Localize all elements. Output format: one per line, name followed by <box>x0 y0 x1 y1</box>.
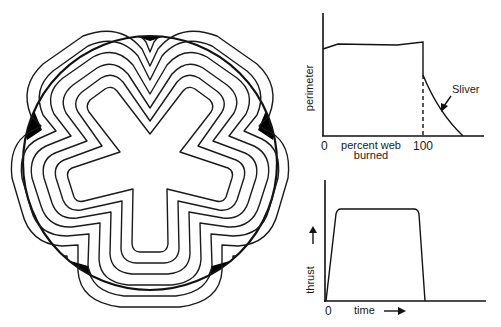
tick-zero: 0 <box>321 139 328 153</box>
thrust-curve <box>326 209 425 301</box>
burn-contours <box>1 22 298 318</box>
contour-5 <box>21 41 278 296</box>
star-grain-cross-section <box>1 22 298 318</box>
sliver-annotation: Sliver <box>452 83 480 95</box>
time-arrow-right-icon <box>398 307 406 315</box>
tick-100: 100 <box>413 139 433 153</box>
figure-canvas: 0 percent web burned 100 perimeter Slive… <box>0 0 501 327</box>
contour-1-star-port <box>68 87 233 252</box>
y-label-thrust: thrust <box>304 266 316 294</box>
x-label-line2: burned <box>354 149 388 161</box>
sliver-regions <box>22 25 278 283</box>
tick-zero-time: 0 <box>325 304 332 318</box>
thrust-chart: 0 time thrust <box>304 180 486 318</box>
thrust-arrow-up-icon <box>309 226 317 233</box>
y-label-perimeter: perimeter <box>303 64 315 111</box>
perimeter-chart: 0 percent web burned 100 perimeter Slive… <box>303 13 484 161</box>
contour-3 <box>43 64 257 274</box>
contour-4 <box>31 53 268 286</box>
contour-6 <box>11 31 288 307</box>
sliver-arrow-shaft <box>444 96 451 106</box>
sliver-top <box>128 25 172 41</box>
perimeter-curve <box>323 42 423 75</box>
x-label-time: time <box>354 304 375 316</box>
